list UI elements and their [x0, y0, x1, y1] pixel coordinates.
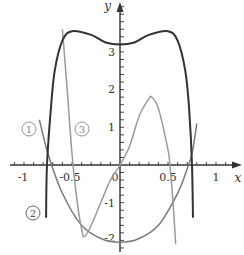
- curve-3-oscillating: [62, 29, 175, 244]
- x-tick-label: 0.5: [159, 171, 177, 184]
- y-tick-label: 2: [108, 83, 115, 96]
- y-tick-label: -1: [104, 197, 115, 210]
- function-plot: -1 -0.5 0 0.5 1 -2 -1 1 2 3 x y 1 3 2: [0, 0, 244, 255]
- x-tick-labels: -1 -0.5 0 0.5 1: [18, 171, 220, 184]
- x-axis-label: x: [235, 171, 242, 185]
- y-tick-label: 3: [108, 46, 115, 59]
- y-axis-label: y: [103, 0, 111, 13]
- x-tick-label: -0.5: [59, 171, 80, 184]
- axes: [10, 2, 242, 252]
- curve-label-2: 2: [26, 206, 40, 220]
- y-tick-label: 1: [108, 121, 115, 134]
- x-axis-arrow-icon: [232, 162, 242, 169]
- svg-text:1: 1: [26, 124, 32, 135]
- svg-text:3: 3: [79, 124, 85, 135]
- x-tick-label: -1: [18, 171, 29, 184]
- svg-text:2: 2: [30, 208, 36, 219]
- curve-label-3: 3: [75, 122, 89, 136]
- y-tick-labels: -2 -1 1 2 3: [104, 46, 115, 245]
- y-tick-label: -2: [104, 232, 115, 245]
- x-tick-label: 1: [213, 171, 220, 184]
- curve-label-1: 1: [22, 122, 36, 136]
